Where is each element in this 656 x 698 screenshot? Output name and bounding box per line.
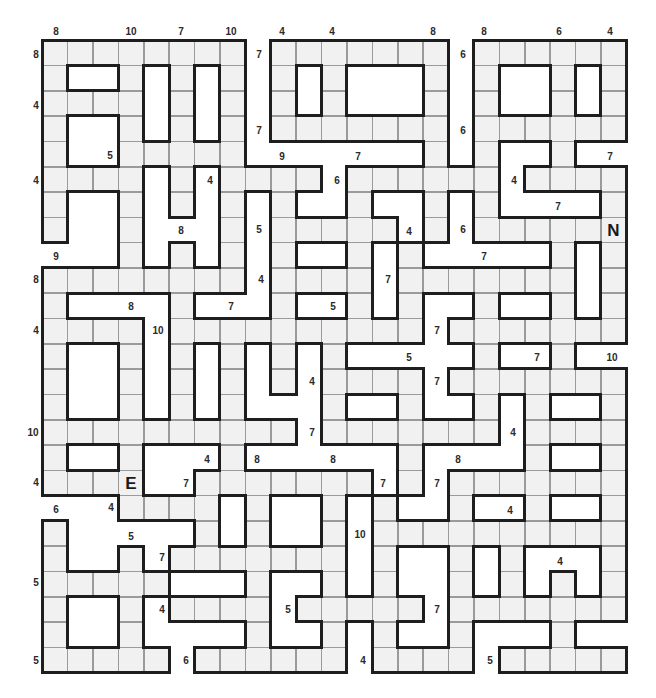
grid-cell[interactable]: [550, 217, 576, 243]
grid-cell[interactable]: [271, 40, 297, 66]
grid-cell[interactable]: [321, 647, 347, 673]
grid-cell[interactable]: [118, 217, 144, 243]
grid-cell[interactable]: [271, 65, 297, 91]
grid-cell[interactable]: [550, 268, 576, 294]
grid-cell[interactable]: [220, 394, 246, 420]
grid-cell[interactable]: [347, 217, 373, 243]
grid-cell[interactable]: [169, 192, 195, 218]
grid-cell[interactable]: [499, 268, 525, 294]
grid-cell[interactable]: [347, 116, 373, 142]
grid-cell[interactable]: [144, 647, 170, 673]
grid-cell[interactable]: [118, 65, 144, 91]
grid-cell[interactable]: [118, 597, 144, 623]
grid-cell[interactable]: [144, 141, 170, 167]
grid-cell[interactable]: [220, 65, 246, 91]
grid-cell[interactable]: [42, 344, 68, 370]
grid-cell[interactable]: [525, 420, 551, 446]
grid-cell[interactable]: [220, 597, 246, 623]
grid-cell[interactable]: [194, 318, 220, 344]
grid-cell[interactable]: [448, 318, 474, 344]
grid-cell[interactable]: [118, 495, 144, 521]
grid-cell[interactable]: [42, 369, 68, 395]
grid-cell[interactable]: [169, 242, 195, 268]
grid-cell[interactable]: [372, 521, 398, 547]
grid-cell[interactable]: [144, 40, 170, 66]
grid-cell[interactable]: [347, 242, 373, 268]
grid-cell[interactable]: [169, 597, 195, 623]
grid-cell[interactable]: [550, 571, 576, 597]
grid-cell[interactable]: [42, 647, 68, 673]
grid-cell[interactable]: [321, 40, 347, 66]
grid-cell[interactable]: [220, 268, 246, 294]
grid-cell[interactable]: [474, 394, 500, 420]
grid-cell[interactable]: [550, 470, 576, 496]
grid-cell[interactable]: [550, 91, 576, 117]
grid-cell[interactable]: [144, 420, 170, 446]
grid-cell[interactable]: [321, 394, 347, 420]
grid-cell[interactable]: [525, 495, 551, 521]
grid-cell[interactable]: [245, 470, 271, 496]
grid-cell[interactable]: [118, 369, 144, 395]
grid-cell[interactable]: [474, 65, 500, 91]
grid-cell[interactable]: [499, 521, 525, 547]
grid-cell[interactable]: [42, 571, 68, 597]
grid-cell[interactable]: [601, 40, 627, 66]
grid-cell[interactable]: [550, 40, 576, 66]
grid-cell[interactable]: [575, 470, 601, 496]
grid-cell[interactable]: [67, 167, 93, 193]
grid-cell[interactable]: [423, 116, 449, 142]
grid-cell[interactable]: [220, 647, 246, 673]
grid-cell[interactable]: [398, 40, 424, 66]
grid-cell[interactable]: [67, 268, 93, 294]
grid-cell[interactable]: [321, 546, 347, 572]
grid-cell[interactable]: [550, 344, 576, 370]
grid-cell[interactable]: [423, 91, 449, 117]
grid-cell[interactable]: [525, 167, 551, 193]
grid-cell[interactable]: [499, 217, 525, 243]
grid-cell[interactable]: [220, 242, 246, 268]
grid-cell[interactable]: [93, 268, 119, 294]
grid-cell[interactable]: [525, 445, 551, 471]
grid-cell[interactable]: [271, 344, 297, 370]
grid-cell[interactable]: [372, 420, 398, 446]
grid-cell[interactable]: [194, 141, 220, 167]
grid-cell[interactable]: [550, 318, 576, 344]
grid-cell[interactable]: [525, 470, 551, 496]
grid-cell[interactable]: [372, 571, 398, 597]
grid-cell[interactable]: [550, 116, 576, 142]
grid-cell[interactable]: [93, 40, 119, 66]
grid-cell[interactable]: [118, 546, 144, 572]
grid-cell[interactable]: [499, 597, 525, 623]
grid-cell[interactable]: [144, 571, 170, 597]
grid-cell[interactable]: [448, 546, 474, 572]
grid-cell[interactable]: [372, 647, 398, 673]
grid-cell[interactable]: [169, 91, 195, 117]
grid-cell[interactable]: [448, 647, 474, 673]
grid-cell[interactable]: [423, 420, 449, 446]
grid-cell[interactable]: [42, 546, 68, 572]
grid-cell[interactable]: [220, 470, 246, 496]
grid-cell[interactable]: [423, 521, 449, 547]
grid-cell[interactable]: [67, 91, 93, 117]
grid-cell[interactable]: [525, 647, 551, 673]
grid-cell[interactable]: [499, 571, 525, 597]
grid-cell[interactable]: [575, 647, 601, 673]
grid-cell[interactable]: [499, 369, 525, 395]
grid-cell[interactable]: [398, 116, 424, 142]
grid-cell[interactable]: [575, 597, 601, 623]
grid-cell[interactable]: [118, 571, 144, 597]
grid-cell[interactable]: [118, 91, 144, 117]
grid-cell[interactable]: [372, 369, 398, 395]
grid-cell[interactable]: [601, 647, 627, 673]
grid-cell[interactable]: [296, 40, 322, 66]
grid-cell[interactable]: [525, 394, 551, 420]
grid-cell[interactable]: [601, 369, 627, 395]
grid-cell[interactable]: [169, 167, 195, 193]
grid-cell[interactable]: [372, 40, 398, 66]
grid-cell[interactable]: [245, 167, 271, 193]
grid-cell[interactable]: [42, 116, 68, 142]
grid-cell[interactable]: [575, 217, 601, 243]
grid-cell[interactable]: [271, 242, 297, 268]
grid-cell[interactable]: [42, 167, 68, 193]
grid-cell[interactable]: [296, 167, 322, 193]
